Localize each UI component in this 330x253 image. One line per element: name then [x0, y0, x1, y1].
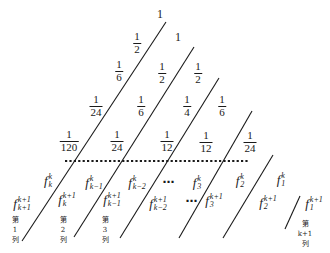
triangle-entry-r5-c5: 1 24 — [244, 130, 257, 154]
f-k-km2-label: f kk−2 — [128, 175, 146, 191]
triangle-entry-r4-c4: 1 6 — [218, 94, 226, 118]
column-label-1: 第 1 列 — [12, 215, 19, 245]
f-k1-k-label: f k+1k — [58, 192, 76, 208]
f-k-3-label: f k3 — [193, 175, 202, 191]
diagonal-line-1 — [22, 22, 166, 241]
triangle-entry-r1-c1: 1 — [157, 7, 163, 22]
triangle-entry-r5-c3: 1 12 — [161, 129, 174, 153]
triangle-entry-r2-c1: 1 2 — [133, 31, 141, 55]
triangle-entry-r4-c2: 1 6 — [137, 94, 145, 118]
triangle-entry-r3-c3: 1 2 — [194, 61, 202, 85]
f-k-2-label: f k2 — [236, 173, 245, 189]
triangle-entry-r4-c3: 1 4 — [183, 94, 191, 118]
column-label-2: 第 2 列 — [60, 215, 67, 245]
triangle-entry-r3-c1: 1 6 — [115, 59, 123, 83]
ellipsis-row-k1: ⋯ — [186, 194, 199, 208]
ellipsis-row-k: ⋯ — [163, 175, 176, 189]
diagonal-line-2 — [74, 47, 194, 237]
triangle-entry-r5-c4: 1 12 — [200, 130, 213, 154]
f-k-1-label: f k1 — [277, 172, 286, 188]
diagonal-line-3 — [120, 78, 219, 238]
column-label-k1: 第 k+1 列 — [298, 219, 313, 249]
f-k1-1-label: f k+11 — [305, 196, 323, 212]
f-k-km1-label: f kk−1 — [85, 175, 103, 191]
f-k1-2-label: f k+12 — [259, 195, 277, 211]
f-k1-km2-label: f k+1k−2 — [149, 196, 167, 212]
triangle-entry-r5-c2: 1 24 — [111, 129, 124, 153]
f-k1-3-label: f k+13 — [205, 193, 223, 209]
triangle-entry-r5-c1: 1 120 — [60, 129, 79, 153]
triangle-entry-r4-c1: 1 24 — [90, 94, 103, 118]
triangle-entry-r3-c2: 1 2 — [158, 61, 166, 85]
f-k1-km1-label: f k+1k−1 — [103, 192, 121, 208]
triangle-entry-r2-c2: 1 — [175, 30, 181, 45]
f-k1-k1-label: f k+1k+1 — [13, 196, 31, 212]
number-triangle-diagram: 1 1 2 1 1 6 1 2 1 2 1 24 1 6 1 4 1 6 1 1… — [0, 0, 330, 253]
diagonal-lines — [0, 0, 330, 253]
f-k-k-label: f kk — [44, 173, 52, 189]
column-label-3: 第 3 列 — [102, 215, 109, 245]
